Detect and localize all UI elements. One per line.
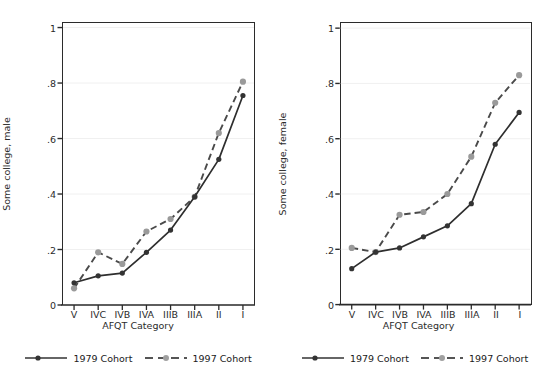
x-tick-label: IIIB — [163, 309, 178, 320]
chart-panel-male: Some college, male 0.2.4.6.81 VIVCIVBIVA… — [0, 0, 276, 385]
legend-item-1997-female: 1997 Cohort — [420, 352, 528, 364]
legend-swatch-dashed-icon — [420, 352, 464, 364]
legend-label-1979-female: 1979 Cohort — [350, 353, 409, 364]
x-tick-label: II — [216, 309, 222, 320]
y-tick-label: 0 — [32, 300, 56, 311]
legend-label-1997-female: 1997 Cohort — [469, 353, 528, 364]
legend-swatch-solid-icon — [24, 352, 68, 364]
x-tick-label: IVC — [368, 309, 384, 320]
x-tick-label: V — [71, 309, 78, 320]
x-axis-title-male: AFQT Category — [0, 320, 276, 331]
legend-male: 1979 Cohort 1997 Cohort — [0, 352, 276, 364]
legend-label-1979-male: 1979 Cohort — [73, 353, 132, 364]
x-tick-label: IIIA — [187, 309, 202, 320]
x-tick-label: IIIA — [465, 309, 480, 320]
legend-label-1997-male: 1997 Cohort — [193, 353, 252, 364]
y-tick-label: 1 — [32, 22, 56, 33]
legend-item-1997-male: 1997 Cohort — [144, 352, 252, 364]
plot-area-female — [340, 22, 532, 305]
y-tick-label: 1 — [310, 22, 334, 33]
y-axis-title-female: Some college, female — [277, 113, 288, 216]
legend-female: 1979 Cohort 1997 Cohort — [276, 352, 553, 364]
x-axis-title-female: AFQT Category — [276, 320, 553, 331]
legend-swatch-solid-icon — [301, 352, 345, 364]
y-tick-label: .2 — [32, 244, 56, 255]
x-tick-label: IIIB — [441, 309, 456, 320]
x-tick-label: II — [493, 309, 499, 320]
x-tick-label: V — [349, 309, 356, 320]
y-tick-label: .2 — [310, 244, 334, 255]
y-tick-label: .4 — [32, 189, 56, 200]
legend-item-1979-female: 1979 Cohort — [301, 352, 409, 364]
y-tick-label: .6 — [32, 133, 56, 144]
y-tick-label: .8 — [32, 78, 56, 89]
y-axis-title-male: Some college, male — [1, 117, 12, 211]
plot-area-male — [62, 22, 255, 305]
y-tick-label: .8 — [310, 78, 334, 89]
x-tick-label: IVB — [392, 309, 408, 320]
legend-swatch-dashed-icon — [144, 352, 188, 364]
x-tick-label: IVC — [90, 309, 106, 320]
y-tick-label: .6 — [310, 133, 334, 144]
y-tick-label: .4 — [310, 189, 334, 200]
chart-panel-female: Some college, female 0.2.4.6.81 VIVCIVBI… — [276, 0, 553, 385]
x-tick-label: IVA — [416, 309, 431, 320]
x-tick-label: IVB — [114, 309, 130, 320]
y-tick-label: 0 — [310, 300, 334, 311]
x-tick-label: I — [242, 309, 245, 320]
x-tick-label: I — [519, 309, 522, 320]
x-tick-label: IVA — [139, 309, 154, 320]
legend-item-1979-male: 1979 Cohort — [24, 352, 132, 364]
figure-two-panel-line-charts: Some college, male 0.2.4.6.81 VIVCIVBIVA… — [0, 0, 553, 385]
